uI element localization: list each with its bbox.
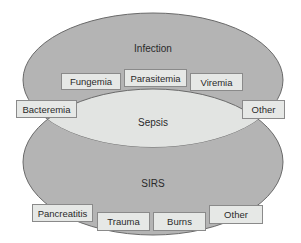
trauma-box: Trauma <box>97 212 150 231</box>
burns-box: Burns <box>153 212 206 231</box>
viremia-box: Viremia <box>190 73 243 91</box>
infection-label: Infection <box>134 43 172 54</box>
infection-other-box: Other <box>242 100 285 119</box>
sepsis-label: Sepsis <box>138 117 168 128</box>
sirs-label: SIRS <box>141 178 164 189</box>
parasitemia-box: Parasitemia <box>124 69 187 87</box>
sirs-other-box: Other <box>209 205 263 224</box>
fungemia-box: Fungemia <box>61 73 121 90</box>
bacteremia-box: Bacteremia <box>16 100 77 118</box>
pancreatitis-box: Pancreatitis <box>32 204 93 222</box>
